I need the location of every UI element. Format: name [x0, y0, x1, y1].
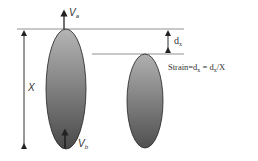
velocity-bottom-subscript: b — [85, 144, 88, 150]
strain-mid: = d — [200, 62, 213, 72]
velocity-top-subscript: a — [76, 13, 79, 19]
velocity-bottom-symbol: V — [78, 138, 85, 149]
deformed-cell-ellipse — [127, 54, 163, 148]
velocity-bottom-label: Vb — [78, 139, 88, 150]
velocity-top-symbol: V — [69, 7, 76, 18]
strain-suffix: /X — [217, 62, 226, 72]
strain-formula: Strain=dx = dx/X — [168, 63, 225, 73]
strain-diagram — [0, 0, 258, 161]
strain-prefix: Strain=d — [168, 62, 197, 72]
displacement-subscript: x — [179, 41, 182, 47]
velocity-top-label: Va — [69, 8, 79, 19]
original-cell-ellipse — [46, 29, 86, 149]
length-label: X — [28, 83, 35, 93]
displacement-label: dx — [174, 36, 182, 47]
